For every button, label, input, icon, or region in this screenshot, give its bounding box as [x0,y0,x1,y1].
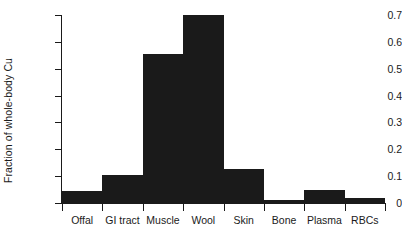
x-tick-mark [183,204,184,211]
x-tick-mark [264,204,265,211]
y-tick-mark [55,96,62,97]
bar-rbcs [345,198,385,203]
x-tick-mark [224,204,225,211]
y-tick-mark [55,42,62,43]
x-tick-mark [62,204,63,211]
y-tick-mark [55,69,62,70]
x-tick-label-bone: Bone [272,214,297,226]
bar-gi-tract [102,175,142,203]
y-tick-mark [55,149,62,150]
bar-skin [224,169,264,203]
bar-bone [264,200,304,203]
y-tick-mark [55,176,62,177]
x-tick-label-wool: Wool [191,214,215,226]
x-tick-label-plasma: Plasma [307,214,342,226]
x-tick-label-skin: Skin [233,214,253,226]
bar-chart-figure: Fraction of whole-body Cu 00.10.20.30.40… [0,0,402,241]
y-tick-mark [55,203,62,204]
x-tick-mark [143,204,144,211]
y-tick-mark [55,15,62,16]
x-tick-mark [102,204,103,211]
plot-area [62,15,385,203]
bar-offal [62,191,102,203]
x-tick-label-muscle: Muscle [146,214,179,226]
x-tick-label-offal: Offal [71,214,93,226]
x-tick-mark [304,204,305,211]
x-tick-mark [385,204,386,211]
bar-wool [183,15,223,203]
x-tick-mark [345,204,346,211]
bar-muscle [143,54,183,203]
x-tick-label-gi-tract: GI tract [105,214,139,226]
y-axis-title: Fraction of whole-body Cu [0,0,16,241]
bar-plasma [304,190,344,203]
y-tick-mark [55,122,62,123]
x-tick-label-rbcs: RBCs [351,214,378,226]
